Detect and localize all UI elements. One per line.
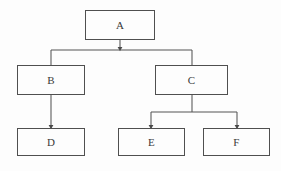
node-f-label: F — [233, 136, 239, 147]
node-f[interactable]: F — [203, 128, 270, 156]
node-d-label: D — [47, 136, 55, 147]
node-a[interactable]: A — [85, 10, 155, 40]
node-c[interactable]: C — [155, 65, 228, 95]
node-a-label: A — [116, 19, 124, 30]
node-b[interactable]: B — [17, 65, 85, 95]
node-e-label: E — [148, 136, 155, 147]
node-b-label: B — [47, 74, 55, 85]
diagram-canvas: A B C D E F — [0, 0, 281, 171]
node-e[interactable]: E — [118, 128, 185, 156]
node-d[interactable]: D — [17, 128, 85, 156]
node-c-label: C — [188, 74, 196, 85]
